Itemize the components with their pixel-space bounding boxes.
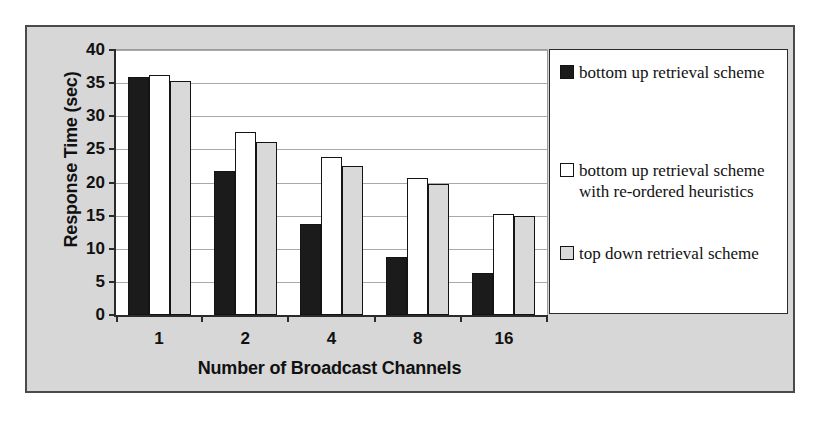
bar (428, 184, 449, 315)
bar (235, 132, 256, 315)
x-tick-label: 4 (327, 329, 336, 349)
y-tick-mark (109, 182, 116, 184)
legend-label: top down retrieval scheme (579, 243, 759, 264)
legend-item[interactable]: top down retrieval scheme (560, 243, 779, 264)
y-tick-mark (109, 148, 116, 150)
bar (342, 166, 363, 315)
bar (170, 81, 191, 315)
legend-label: bottom up retrieval scheme with re-order… (579, 160, 779, 202)
gray-swatch (560, 246, 574, 260)
x-tick-mark (287, 315, 289, 322)
y-tick-mark (109, 215, 116, 217)
legend-item[interactable]: bottom up retrieval scheme (560, 62, 779, 83)
bar (472, 273, 493, 315)
legend-label: bottom up retrieval scheme (579, 62, 765, 83)
x-tick-mark (460, 315, 462, 322)
bar (321, 157, 342, 315)
gridline (116, 50, 547, 51)
y-tick-label: 0 (96, 305, 105, 325)
plot-area: 0510152025303540124816 (114, 49, 548, 317)
chart-figure: Response Time (sec) 05101520253035401248… (25, 25, 795, 393)
x-axis-title: Number of Broadcast Channels (114, 358, 545, 379)
chart-legend: bottom up retrieval schemebottom up retr… (549, 49, 788, 314)
bar (300, 224, 321, 315)
x-tick-mark (374, 315, 376, 322)
x-tick-label: 1 (154, 329, 163, 349)
y-tick-label: 25 (86, 139, 105, 159)
y-tick-mark (109, 281, 116, 283)
y-tick-label: 20 (86, 173, 105, 193)
white-swatch (560, 163, 574, 177)
y-tick-label: 40 (86, 40, 105, 60)
bar (407, 178, 428, 315)
y-tick-label: 10 (86, 239, 105, 259)
y-tick-label: 15 (86, 206, 105, 226)
y-tick-mark (109, 248, 116, 250)
bar (493, 214, 514, 315)
y-axis-title: Response Time (sec) (61, 27, 82, 292)
y-tick-mark (109, 314, 116, 316)
x-tick-mark (546, 315, 548, 322)
y-tick-label: 30 (86, 106, 105, 126)
black-swatch (560, 65, 574, 79)
bar (386, 257, 407, 315)
y-tick-mark (109, 82, 116, 84)
x-tick-label: 16 (494, 329, 513, 349)
x-tick-label: 2 (241, 329, 250, 349)
y-tick-label: 35 (86, 73, 105, 93)
bar (256, 142, 277, 315)
x-tick-mark (116, 315, 118, 322)
bar (149, 75, 170, 315)
legend-item[interactable]: bottom up retrieval scheme with re-order… (560, 160, 779, 202)
x-tick-label: 8 (413, 329, 422, 349)
y-tick-mark (109, 49, 116, 51)
y-tick-mark (109, 115, 116, 117)
bar (514, 216, 535, 315)
bar (214, 171, 235, 315)
x-tick-mark (201, 315, 203, 322)
y-tick-label: 5 (96, 272, 105, 292)
bar (128, 77, 149, 316)
